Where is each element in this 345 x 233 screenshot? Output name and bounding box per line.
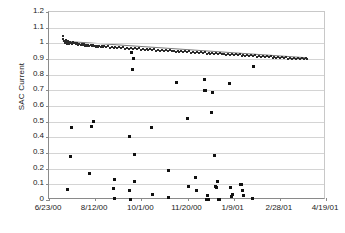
x-tick-label: 1/9/01 — [222, 203, 244, 213]
data-point — [112, 187, 115, 190]
trendline — [49, 12, 324, 198]
data-point — [150, 126, 153, 129]
x-tick-mark — [95, 198, 96, 201]
data-point — [211, 91, 214, 94]
data-point — [130, 51, 133, 54]
data-point — [90, 125, 93, 128]
x-tick-label: 6/23/00 — [35, 203, 62, 213]
y-tick-mark — [46, 137, 49, 138]
y-tick-label: 0.1 — [20, 179, 44, 187]
y-tick-label: 0.7 — [20, 85, 44, 93]
data-point — [187, 185, 190, 188]
data-point — [228, 82, 231, 85]
gridline — [49, 122, 324, 123]
x-axis-tick-labels: 6/23/008/12/0010/1/0011/20/001/9/012/28/… — [0, 203, 345, 219]
data-point — [69, 155, 72, 158]
data-point — [167, 196, 170, 199]
gridline — [49, 137, 324, 138]
data-point — [113, 197, 116, 200]
sac-current-scatter-chart: SAC Current 1.21.110.90.80.70.60.50.40.3… — [0, 0, 345, 233]
data-point — [194, 176, 197, 179]
data-point — [175, 81, 178, 84]
y-tick-label: 0 — [20, 195, 44, 203]
x-tick-label: 8/12/00 — [81, 203, 108, 213]
y-tick-mark — [46, 90, 49, 91]
data-point — [215, 186, 218, 189]
data-point — [167, 169, 170, 172]
y-tick-mark — [46, 122, 49, 123]
data-point — [206, 194, 209, 197]
gridline — [49, 169, 324, 170]
y-tick-label: 0.2 — [20, 164, 44, 172]
data-point — [204, 89, 207, 92]
data-point — [241, 189, 244, 192]
data-point — [306, 58, 308, 60]
data-point — [210, 111, 213, 114]
data-point — [151, 193, 154, 196]
y-tick-label: 0.8 — [20, 70, 44, 78]
y-tick-mark — [46, 75, 49, 76]
data-point — [252, 65, 255, 68]
data-point — [229, 186, 232, 189]
y-tick-mark — [46, 43, 49, 44]
data-point — [113, 178, 116, 181]
data-point — [92, 120, 95, 123]
data-point — [131, 68, 134, 71]
data-point — [207, 198, 210, 201]
y-tick-mark — [46, 28, 49, 29]
data-point — [216, 180, 219, 183]
data-point — [218, 198, 221, 201]
y-tick-label: 0.3 — [20, 148, 44, 156]
data-point — [133, 180, 136, 183]
gridline — [49, 90, 324, 91]
x-tick-label: 11/20/00 — [171, 203, 202, 213]
data-point — [240, 183, 243, 186]
gridline — [49, 75, 324, 76]
x-tick-mark — [234, 198, 235, 201]
y-tick-mark — [46, 153, 49, 154]
x-tick-label: 10/1/00 — [127, 203, 154, 213]
y-tick-label: 0.9 — [20, 54, 44, 62]
x-tick-mark — [280, 198, 281, 201]
gridline — [49, 106, 324, 107]
plot-area — [48, 11, 325, 199]
y-tick-label: 1.1 — [20, 23, 44, 31]
x-tick-mark — [326, 198, 327, 201]
data-point — [203, 78, 206, 81]
data-point — [186, 117, 189, 120]
data-point — [195, 189, 198, 192]
y-tick-mark — [46, 184, 49, 185]
data-point — [242, 194, 245, 197]
gridline — [49, 28, 324, 29]
data-point — [133, 153, 136, 156]
data-point — [128, 135, 131, 138]
y-tick-mark — [46, 12, 49, 13]
y-tick-mark — [46, 169, 49, 170]
y-axis-tick-labels: 1.21.110.90.80.70.60.50.40.30.20.10 — [20, 0, 44, 233]
data-point — [66, 188, 69, 191]
y-tick-label: 1.2 — [20, 7, 44, 15]
data-point — [88, 172, 91, 175]
data-point — [213, 154, 216, 157]
data-point — [128, 189, 131, 192]
data-point — [129, 198, 132, 201]
data-point — [231, 193, 234, 196]
x-tick-label: 2/28/01 — [265, 203, 292, 213]
x-tick-mark — [188, 198, 189, 201]
data-point — [70, 126, 73, 129]
y-tick-label: 0.4 — [20, 132, 44, 140]
data-point — [251, 197, 254, 200]
x-tick-mark — [141, 198, 142, 201]
y-tick-label: 0.5 — [20, 117, 44, 125]
y-tick-mark — [46, 106, 49, 107]
x-tick-mark — [49, 198, 50, 201]
y-tick-mark — [46, 59, 49, 60]
gridline — [49, 153, 324, 154]
y-tick-label: 0.6 — [20, 101, 44, 109]
data-point — [132, 57, 135, 60]
y-tick-label: 1 — [20, 38, 44, 46]
x-tick-label: 4/19/01 — [312, 203, 339, 213]
